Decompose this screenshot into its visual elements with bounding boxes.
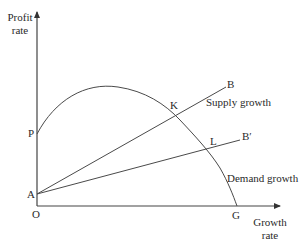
x-axis-label: Growth rate	[248, 216, 292, 242]
point-label-k: K	[170, 99, 178, 111]
x-axis-label-line2: rate	[248, 229, 292, 242]
point-label-b-prime: B′	[242, 130, 252, 142]
y-axis-label: Profit rate	[3, 11, 37, 37]
diagram-svg	[0, 0, 303, 245]
diagram-canvas: Profit rate Growth rate P A O K L B B′ G…	[0, 0, 303, 245]
point-label-l: L	[210, 135, 217, 147]
y-axis-label-line1: Profit	[3, 11, 37, 24]
point-label-g: G	[232, 209, 240, 221]
supply-growth-line-ab-prime	[37, 140, 240, 194]
point-label-a: A	[27, 188, 35, 200]
supply-growth-line-ab	[37, 87, 226, 194]
demand-growth-label: Demand growth	[227, 172, 298, 184]
point-label-origin: O	[32, 208, 40, 220]
x-axis-label-line1: Growth	[248, 216, 292, 229]
y-axis-label-line2: rate	[3, 24, 37, 37]
point-label-b: B	[227, 78, 234, 90]
supply-growth-label: Supply growth	[206, 96, 271, 108]
point-label-p: P	[28, 127, 34, 139]
